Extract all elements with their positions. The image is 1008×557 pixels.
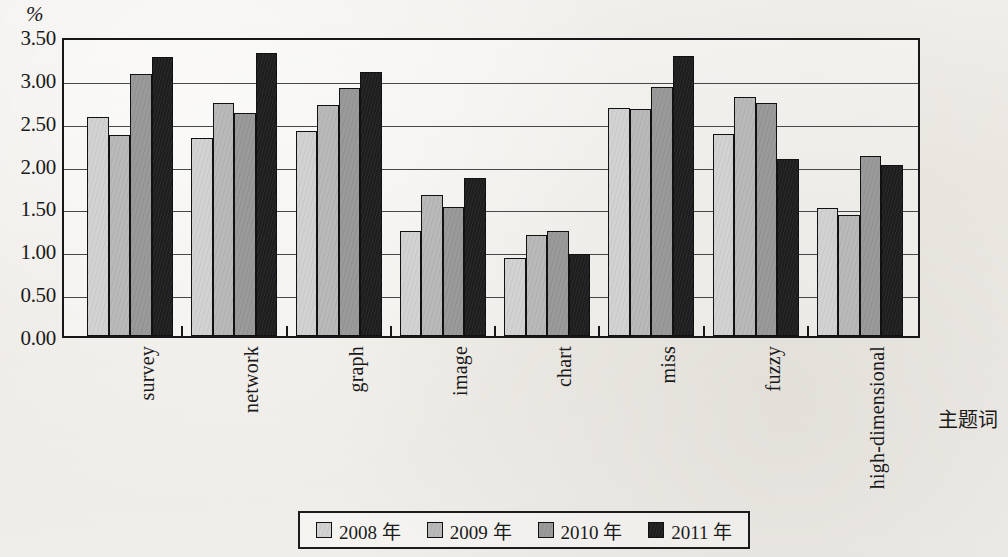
- legend-label: 2011 年: [671, 517, 732, 544]
- bar-group: [817, 40, 903, 336]
- x-axis-category-label: survey: [137, 346, 157, 401]
- axis-separator-tick: [390, 326, 392, 336]
- x-axis-category-label: fuzzy: [763, 346, 783, 391]
- x-axis-category-label: chart: [554, 346, 574, 387]
- legend-item[interactable]: 2011 年: [648, 517, 732, 544]
- bar[interactable]: [817, 208, 839, 336]
- x-axis-category-label: high-dimensional: [867, 346, 887, 489]
- bar[interactable]: [87, 117, 109, 336]
- bar[interactable]: [860, 156, 882, 336]
- bar-group: [296, 40, 382, 336]
- y-axis-tick-label: 3.50: [0, 28, 56, 49]
- bar[interactable]: [256, 53, 278, 336]
- legend-swatch-icon: [316, 522, 332, 538]
- bar[interactable]: [360, 72, 382, 336]
- axis-separator-tick: [181, 326, 183, 336]
- bar[interactable]: [443, 207, 465, 336]
- legend-swatch-icon: [427, 522, 443, 538]
- axis-separator-tick: [703, 326, 705, 336]
- y-axis-tick-label: 2.00: [0, 156, 56, 177]
- x-axis-title: 主题词: [938, 404, 998, 433]
- bar[interactable]: [400, 231, 422, 336]
- axis-separator-tick: [286, 326, 288, 336]
- bar[interactable]: [421, 195, 443, 336]
- y-axis-tick-label: 0.50: [0, 285, 56, 306]
- axis-separator-tick: [494, 326, 496, 336]
- bar[interactable]: [547, 231, 569, 336]
- legend-swatch-icon: [648, 522, 664, 538]
- bar[interactable]: [673, 56, 695, 336]
- bar[interactable]: [838, 215, 860, 336]
- bar[interactable]: [630, 109, 652, 336]
- bar[interactable]: [734, 97, 756, 336]
- bar[interactable]: [464, 178, 486, 336]
- bar-group-container: [64, 40, 918, 336]
- legend-label: 2010 年: [561, 517, 623, 544]
- axis-separator-tick: [807, 326, 809, 336]
- x-axis-category-label: image: [450, 346, 470, 396]
- axis-separator-tick: [598, 326, 600, 336]
- chart-legend: 2008 年2009 年2010 年2011 年: [298, 511, 750, 549]
- legend-swatch-icon: [538, 522, 554, 538]
- bar-group: [713, 40, 799, 336]
- y-axis-tick-label: 1.50: [0, 199, 56, 220]
- y-axis-tick-label: 3.00: [0, 70, 56, 91]
- bar-group: [608, 40, 694, 336]
- x-axis-category-label: miss: [658, 346, 678, 383]
- bar[interactable]: [317, 105, 339, 336]
- y-axis-tick-label: 2.50: [0, 113, 56, 134]
- legend-label: 2008 年: [339, 517, 401, 544]
- bar[interactable]: [526, 235, 548, 336]
- bar[interactable]: [651, 87, 673, 336]
- y-axis-tick-label: 0.00: [0, 328, 56, 349]
- bar-group: [87, 40, 173, 336]
- bar[interactable]: [109, 135, 131, 336]
- bar[interactable]: [504, 258, 526, 336]
- legend-item[interactable]: 2008 年: [316, 517, 401, 544]
- bar[interactable]: [569, 254, 591, 336]
- bar[interactable]: [213, 103, 235, 336]
- legend-label: 2009 年: [450, 517, 512, 544]
- x-axis-category-label: graph: [346, 346, 366, 393]
- y-axis-tick-labels: 3.503.002.502.001.501.000.500.00: [0, 38, 56, 338]
- bar[interactable]: [296, 131, 318, 336]
- x-axis-category-label: network: [241, 346, 261, 413]
- bar[interactable]: [713, 134, 735, 336]
- chart-plot-area: [62, 38, 920, 338]
- bar-group: [504, 40, 590, 336]
- bar[interactable]: [130, 74, 152, 336]
- bar[interactable]: [339, 88, 361, 336]
- bar[interactable]: [191, 138, 213, 336]
- legend-item[interactable]: 2010 年: [538, 517, 623, 544]
- bar[interactable]: [756, 103, 778, 336]
- bar[interactable]: [777, 159, 799, 336]
- bar[interactable]: [608, 108, 630, 336]
- legend-item[interactable]: 2009 年: [427, 517, 512, 544]
- bar[interactable]: [881, 165, 903, 336]
- bar-group: [191, 40, 277, 336]
- bar-group: [400, 40, 486, 336]
- y-axis-tick-label: 1.00: [0, 242, 56, 263]
- bar[interactable]: [152, 57, 174, 336]
- bar[interactable]: [234, 113, 256, 336]
- y-axis-unit-label: %: [26, 2, 44, 27]
